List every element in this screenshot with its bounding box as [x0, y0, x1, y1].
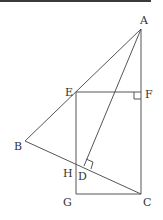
right-angle-mark-F: [134, 92, 141, 99]
label-E: E: [65, 86, 73, 99]
geometry-figure: A E F B H D G C: [0, 0, 163, 220]
label-B: B: [14, 140, 22, 153]
segment-AB: [25, 29, 141, 141]
label-H: H: [63, 167, 73, 180]
label-D: D: [78, 170, 87, 183]
label-A: A: [139, 14, 149, 27]
right-angle-mark-D: [86, 159, 93, 169]
segment-AD: [84, 29, 141, 166]
label-F: F: [145, 88, 153, 101]
label-G: G: [63, 196, 72, 209]
label-C: C: [143, 196, 151, 209]
segment-BC: [25, 141, 141, 194]
